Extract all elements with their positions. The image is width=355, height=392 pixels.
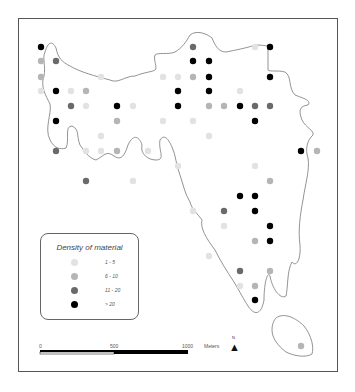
north-arrow-icon: ▲ — [229, 341, 240, 353]
density-point — [252, 193, 258, 199]
legend-item-over-20: > 20 — [71, 298, 78, 310]
density-point — [114, 103, 120, 109]
density-point — [298, 343, 304, 349]
density-point — [237, 283, 243, 289]
legend-label: 1 - 5 — [105, 259, 115, 265]
density-point — [98, 148, 104, 154]
density-point — [68, 103, 74, 109]
density-point — [237, 88, 243, 94]
density-point — [160, 118, 166, 124]
density-point — [130, 178, 136, 184]
density-point — [175, 74, 181, 80]
legend: Density of material 1 - 5 6 - 10 11 - 20… — [40, 233, 139, 320]
density-point — [98, 74, 104, 80]
scale-bar — [40, 350, 188, 354]
density-point — [252, 118, 258, 124]
density-point — [38, 44, 44, 50]
legend-label: 11 - 20 — [105, 287, 120, 293]
density-point — [206, 88, 212, 94]
scale-tick-1000: 1000 — [182, 343, 193, 349]
density-point — [314, 148, 320, 154]
density-point — [38, 88, 44, 94]
density-point — [237, 193, 243, 199]
density-point — [53, 118, 59, 124]
density-point — [160, 74, 166, 80]
legend-label: > 20 — [105, 301, 115, 307]
density-point — [237, 103, 243, 109]
density-point — [267, 44, 273, 50]
density-point — [221, 103, 227, 109]
scale-tick-500: 500 — [110, 343, 118, 349]
density-point — [130, 103, 136, 109]
density-point — [298, 148, 304, 154]
density-point — [252, 208, 258, 214]
density-point — [114, 118, 120, 124]
density-point — [114, 148, 120, 154]
scale-tick-0: 0 — [39, 343, 42, 349]
density-point — [252, 283, 258, 289]
island-outline — [272, 316, 313, 357]
scale-unit: Meters — [204, 343, 219, 349]
density-point — [252, 103, 258, 109]
density-point — [38, 58, 44, 64]
density-point — [267, 268, 273, 274]
density-point — [221, 208, 227, 214]
density-point — [68, 88, 74, 94]
density-point — [267, 178, 273, 184]
density-point — [206, 74, 212, 80]
legend-label: 6 - 10 — [105, 273, 118, 279]
density-point — [145, 148, 151, 154]
north-label: N — [232, 335, 235, 340]
density-point — [190, 58, 196, 64]
density-point — [38, 74, 44, 80]
density-point — [267, 103, 273, 109]
density-point — [83, 103, 89, 109]
density-point — [53, 148, 59, 154]
density-point — [252, 238, 258, 244]
legend-item-6-10: 6 - 10 — [71, 270, 78, 282]
density-point — [53, 58, 59, 64]
density-point — [175, 88, 181, 94]
density-point — [267, 238, 273, 244]
density-point — [190, 44, 196, 50]
density-point — [252, 44, 258, 50]
legend-item-1-5: 1 - 5 — [71, 256, 78, 268]
map-canvas — [0, 0, 355, 392]
density-point — [206, 133, 212, 139]
density-point — [53, 88, 59, 94]
density-point — [206, 58, 212, 64]
density-point — [221, 223, 227, 229]
density-point — [206, 103, 212, 109]
density-point — [83, 88, 89, 94]
density-point — [190, 208, 196, 214]
density-point — [206, 253, 212, 259]
density-point — [237, 268, 243, 274]
density-point — [267, 223, 273, 229]
density-point — [252, 163, 258, 169]
density-point — [190, 118, 196, 124]
legend-title: Density of material — [41, 243, 138, 252]
legend-item-11-20: 11 - 20 — [71, 284, 78, 296]
density-point — [83, 148, 89, 154]
density-point — [190, 74, 196, 80]
density-point — [98, 133, 104, 139]
density-point — [175, 163, 181, 169]
legend-swatch — [71, 273, 78, 280]
legend-swatch — [71, 287, 78, 294]
density-point — [83, 178, 89, 184]
density-point — [175, 103, 181, 109]
legend-swatch — [71, 301, 78, 308]
density-point — [252, 297, 258, 303]
density-point — [267, 74, 273, 80]
legend-swatch — [71, 259, 78, 266]
